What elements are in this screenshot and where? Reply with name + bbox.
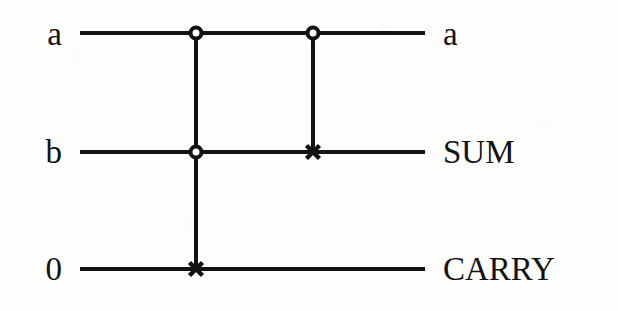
quantum-circuit-figure: a b 0 a SUM CARRY [0, 0, 618, 311]
control-open-circle-cnot-a [308, 28, 319, 39]
control-open-circle-toffoli-a [191, 28, 202, 39]
circuit-canvas [0, 0, 618, 311]
control-open-circle-toffoli-b [191, 147, 202, 158]
